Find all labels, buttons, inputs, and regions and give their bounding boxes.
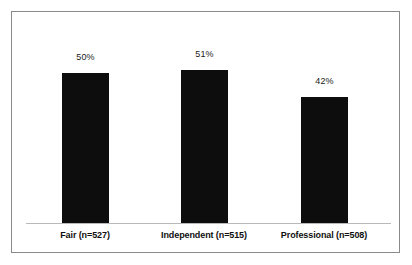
bar-chart-figure: 50% 51% 42% Fair (n=527) Independent (n=… <box>0 0 412 265</box>
chart-frame-border: 50% 51% 42% Fair (n=527) Independent (n=… <box>11 11 400 253</box>
bar-rect-professional <box>301 97 348 223</box>
category-label-professional: Professional (n=508) <box>254 230 394 240</box>
plot-area: 50% 51% 42% Fair (n=527) Independent (n=… <box>12 12 401 254</box>
category-label-independent: Independent (n=515) <box>134 230 274 240</box>
category-axis-line <box>26 223 391 224</box>
bar-value-label-professional: 42% <box>287 76 362 86</box>
bar-value-label-fair: 50% <box>48 52 123 62</box>
bar-value-label-independent: 51% <box>167 49 242 59</box>
bar-rect-fair <box>62 73 109 223</box>
bar-rect-independent <box>181 70 228 223</box>
